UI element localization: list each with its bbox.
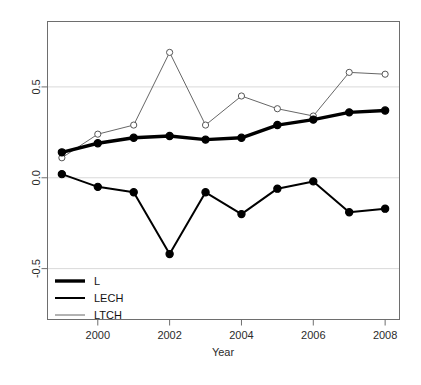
data-point-ltch-2008: [382, 71, 388, 77]
data-point-lech-2008: [382, 205, 389, 212]
data-point-lech-2003: [202, 189, 209, 196]
data-point-ltch-2000: [95, 131, 101, 137]
data-point-lech-2002: [166, 250, 173, 257]
data-point-lech-2001: [130, 189, 137, 196]
data-point-lech-2000: [94, 183, 101, 190]
data-point-l-1999: [58, 149, 65, 156]
chart-background: [0, 0, 421, 385]
x-tick-label: 2006: [301, 329, 325, 341]
data-point-ltch-2004: [238, 93, 244, 99]
data-point-ltch-2001: [131, 122, 137, 128]
data-point-lech-2007: [346, 209, 353, 216]
data-point-ltch-2002: [167, 49, 173, 55]
x-tick-label: 2000: [86, 329, 110, 341]
y-tick-label: 0.0: [31, 170, 43, 185]
y-tick-label: 0.5: [31, 79, 43, 94]
data-point-l-2002: [166, 132, 173, 139]
data-point-lech-2004: [238, 211, 245, 218]
data-point-lech-2006: [310, 178, 317, 185]
data-point-ltch-2005: [274, 106, 280, 112]
legend-label-lech: LECH: [94, 292, 123, 304]
data-point-l-2006: [310, 116, 317, 123]
data-point-ltch-2007: [346, 69, 352, 75]
data-point-l-2005: [274, 121, 281, 128]
data-point-l-2001: [130, 134, 137, 141]
data-point-l-2004: [238, 134, 245, 141]
data-point-l-2003: [202, 136, 209, 143]
x-tick-label: 2004: [229, 329, 253, 341]
legend-label-l: L: [94, 275, 100, 287]
chart-container: -0.50.00.5 20002002200420062008 LLECHLTC…: [0, 0, 421, 385]
data-point-l-2000: [94, 140, 101, 147]
x-tick-label: 2002: [157, 329, 181, 341]
x-axis-title: Year: [212, 346, 235, 358]
legend-label-ltch: LTCH: [94, 309, 122, 321]
y-tick-label: -0.5: [31, 259, 43, 278]
data-point-lech-2005: [274, 185, 281, 192]
data-point-l-2007: [346, 109, 353, 116]
data-point-l-2008: [382, 107, 389, 114]
data-point-ltch-2003: [202, 122, 208, 128]
x-tick-label: 2008: [373, 329, 397, 341]
data-point-lech-1999: [58, 171, 65, 178]
line-chart: -0.50.00.5 20002002200420062008 LLECHLTC…: [0, 0, 421, 385]
